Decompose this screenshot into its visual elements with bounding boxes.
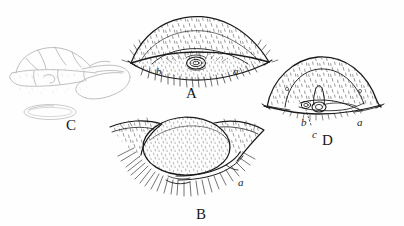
figure-d-ref-b: b xyxy=(301,117,307,128)
figure-d xyxy=(262,54,388,125)
figure-label-d: D xyxy=(322,133,333,148)
figure-d-ref-c: c xyxy=(312,129,317,140)
figure-a-ref-b: b xyxy=(156,66,162,77)
figure-c xyxy=(10,47,130,120)
figure-label-a: A xyxy=(186,86,197,101)
figure-label-c: C xyxy=(66,118,76,133)
figure-a-ref-a: a xyxy=(233,66,239,77)
figure-a xyxy=(122,5,278,87)
figure-d-ref-a: a xyxy=(357,117,363,128)
anatomical-plate xyxy=(0,0,404,226)
figure-b-ref-a: a xyxy=(238,177,244,188)
figure-label-b: B xyxy=(196,207,206,222)
